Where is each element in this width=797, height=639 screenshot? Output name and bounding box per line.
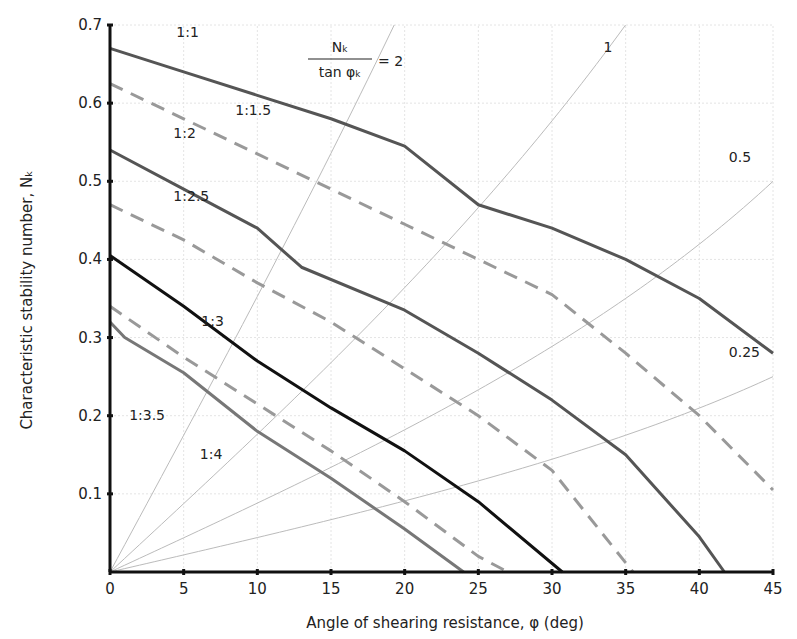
reference-label: 1 <box>604 39 613 55</box>
formula-annotation: Nₖ tan φₖ = 2 <box>308 39 403 80</box>
series-1-4 <box>110 322 464 572</box>
grid-lines <box>110 25 773 572</box>
series-label: 1:3.5 <box>129 407 165 423</box>
y-tick-label: 0.4 <box>78 250 102 268</box>
x-tick-label: 10 <box>248 580 267 598</box>
series-label: 1:4 <box>200 446 223 462</box>
x-tick-label: 40 <box>690 580 709 598</box>
series-1-3 <box>110 256 562 572</box>
reference-lines: 10.50.25 <box>110 25 773 572</box>
x-tick-label: 15 <box>321 580 340 598</box>
y-tick-label: 0.1 <box>78 485 102 503</box>
x-tick-label: 45 <box>763 580 782 598</box>
reference-label: 0.25 <box>729 344 760 360</box>
reference-line-k-1 <box>110 25 626 572</box>
y-axis-label: Characteristic stability number, Nₖ <box>18 170 36 429</box>
series-1-1 <box>110 48 773 353</box>
reference-line-k-0.5 <box>110 181 773 572</box>
reference-label: 0.5 <box>729 149 751 165</box>
x-tick-label: 35 <box>616 580 635 598</box>
x-tick-label: 25 <box>469 580 488 598</box>
y-tick-label: 0.3 <box>78 329 102 347</box>
formula-denominator: tan φₖ <box>319 64 362 80</box>
x-tick-label: 5 <box>179 580 189 598</box>
series-label: 1:2 <box>173 125 196 141</box>
series-1-1-5 <box>110 84 773 490</box>
series-1-2 <box>110 150 724 572</box>
curve-labels: 1:11:1.51:21:2.51:31:3.51:4 <box>129 24 271 462</box>
reference-line-k-0.25 <box>110 377 773 572</box>
y-tick-label: 0.2 <box>78 407 102 425</box>
x-axis-label: Angle of shearing resistance, φ (deg) <box>306 614 584 632</box>
series-label: 1:3 <box>201 313 224 329</box>
y-tick-label: 0.5 <box>78 172 102 190</box>
formula-numerator: Nₖ <box>332 39 348 55</box>
x-tick-label: 20 <box>395 580 414 598</box>
stability-chart: 10.50.25 0510152025303540450.10.20.30.40… <box>0 0 797 639</box>
series-label: 1:1 <box>176 24 199 40</box>
x-tick-label: 30 <box>542 580 561 598</box>
series-label: 1:1.5 <box>235 102 271 118</box>
data-series <box>110 48 773 572</box>
formula-equals: = 2 <box>378 53 403 69</box>
x-tick-label: 0 <box>105 580 115 598</box>
y-tick-label: 0.7 <box>78 16 102 34</box>
y-tick-label: 0.6 <box>78 94 102 112</box>
series-1-3-5 <box>110 306 508 572</box>
series-label: 1:2.5 <box>173 188 209 204</box>
